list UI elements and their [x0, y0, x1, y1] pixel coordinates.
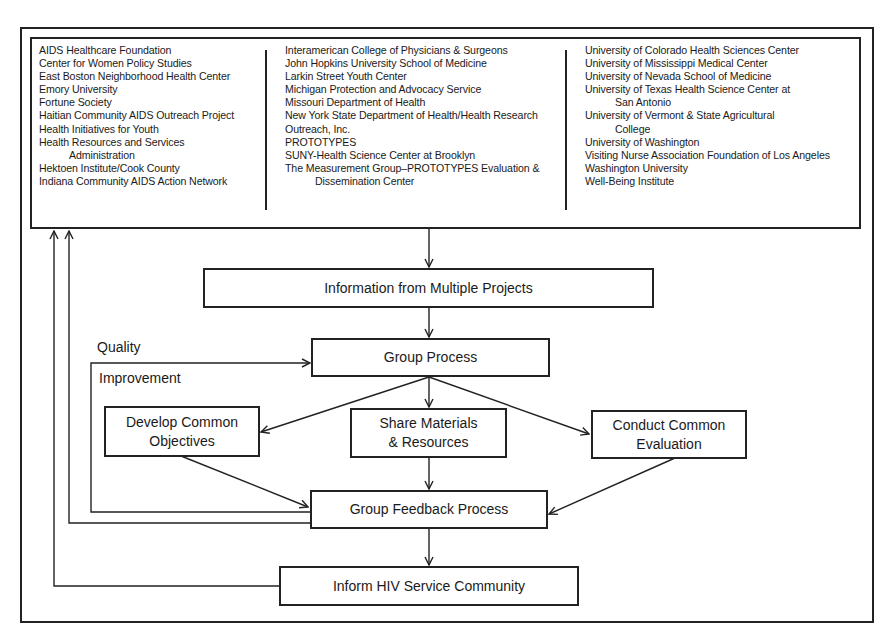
node-label-line-1: Develop Common: [126, 413, 238, 432]
node-label-line-1: Share Materials: [379, 414, 477, 433]
node-label: Group Feedback Process: [350, 500, 509, 519]
node-share-materials-resources: Share Materials & Resources: [350, 408, 507, 458]
node-label-line-2: Objectives: [149, 432, 214, 451]
node-label: Information from Multiple Projects: [324, 279, 533, 298]
node-label-line-2: & Resources: [388, 433, 468, 452]
node-develop-common-objectives: Develop Common Objectives: [104, 406, 260, 457]
label-quality: Quality: [97, 339, 141, 355]
node-inform-hiv-service-community: Inform HIV Service Community: [279, 566, 579, 606]
label-improvement: Improvement: [99, 370, 181, 386]
node-information-from-multiple-projects: Information from Multiple Projects: [203, 268, 654, 308]
node-label-line-2: Evaluation: [636, 435, 701, 454]
node-group-process: Group Process: [311, 338, 550, 377]
node-label-line-1: Conduct Common: [613, 416, 726, 435]
node-label: Inform HIV Service Community: [333, 577, 525, 596]
node-conduct-common-evaluation: Conduct Common Evaluation: [591, 410, 747, 459]
node-label: Group Process: [384, 348, 477, 367]
connector-lines: [0, 0, 888, 642]
node-group-feedback-process: Group Feedback Process: [310, 490, 548, 529]
